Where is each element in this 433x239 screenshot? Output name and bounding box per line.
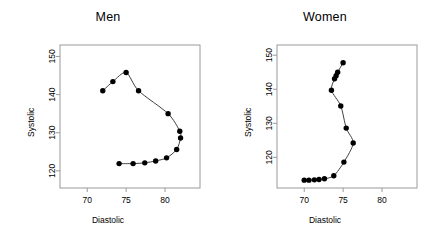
data-point [178, 135, 183, 140]
data-point [306, 177, 311, 182]
data-point [136, 88, 141, 93]
y-tick-label: 140 [264, 82, 274, 96]
data-point [329, 88, 334, 93]
data-point [123, 70, 128, 75]
data-point [344, 125, 349, 130]
x-tick-label: 70 [82, 195, 92, 205]
panel-men: Men Systolic 707580120130140150 Diastoli… [0, 0, 216, 239]
y-tick-label: 120 [47, 163, 57, 177]
data-point [130, 161, 135, 166]
y-tick-label: 130 [264, 116, 274, 130]
plot-area-women: 707580120130140150 [217, 0, 433, 239]
x-tick-label: 70 [299, 195, 309, 205]
data-point [100, 88, 105, 93]
data-point [177, 128, 182, 133]
data-point [316, 177, 321, 182]
data-point [351, 140, 356, 145]
data-point [302, 177, 307, 182]
data-point [312, 177, 317, 182]
data-point [116, 161, 121, 166]
data-point [153, 158, 158, 163]
y-tick-label: 140 [47, 87, 57, 101]
y-tick-label: 120 [264, 150, 274, 164]
series-line [103, 72, 181, 163]
data-point [338, 103, 343, 108]
plot-frame [60, 45, 200, 188]
data-point [341, 159, 346, 164]
x-axis-title-men: Diastolic [0, 215, 216, 225]
data-point [332, 76, 337, 81]
x-axis-title-women: Diastolic [217, 215, 433, 225]
plot-frame [277, 45, 417, 188]
data-point [331, 173, 336, 178]
figure-canvas: Men Systolic 707580120130140150 Diastoli… [0, 0, 433, 239]
data-point [164, 155, 169, 160]
data-point [174, 147, 179, 152]
x-tick-label: 75 [338, 195, 348, 205]
data-point [110, 79, 115, 84]
data-point [165, 111, 170, 116]
x-tick-label: 75 [121, 195, 131, 205]
data-point [340, 60, 345, 65]
panel-women: Women Systolic 707580120130140150 Diasto… [217, 0, 433, 239]
data-point [142, 160, 147, 165]
y-tick-label: 130 [47, 125, 57, 139]
y-tick-label: 150 [264, 48, 274, 62]
data-point [322, 176, 327, 181]
plot-area-men: 707580120130140150 [0, 0, 216, 239]
x-tick-label: 80 [160, 195, 170, 205]
y-tick-label: 150 [47, 49, 57, 63]
x-tick-label: 80 [377, 195, 387, 205]
